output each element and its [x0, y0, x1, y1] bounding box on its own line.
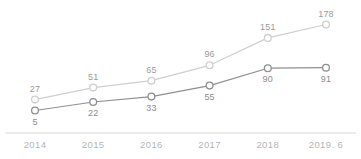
lower-series-markers — [32, 64, 330, 114]
data-point-marker[interactable] — [206, 82, 213, 89]
data-point-marker[interactable] — [323, 64, 330, 71]
x-tick-label: 2019. 6 — [309, 139, 344, 150]
chart-plot-area — [0, 0, 361, 159]
upper-series-line — [35, 25, 326, 100]
data-point-marker[interactable] — [264, 65, 271, 72]
data-point-marker[interactable] — [148, 77, 155, 84]
x-tick-label: 2018 — [256, 139, 279, 150]
data-point-value-label: 178 — [318, 9, 334, 19]
data-point-value-label: 91 — [321, 74, 331, 84]
data-point-marker[interactable] — [32, 96, 39, 103]
data-point-value-label: 55 — [204, 92, 214, 102]
data-point-value-label: 151 — [260, 22, 276, 32]
data-point-marker[interactable] — [206, 62, 213, 69]
x-tick-label: 2017 — [198, 139, 221, 150]
data-point-value-label: 96 — [204, 49, 214, 59]
data-point-value-label: 5 — [32, 117, 37, 127]
lower-series-line — [35, 68, 326, 111]
x-tick-label: 2015 — [82, 139, 105, 150]
data-point-marker[interactable] — [90, 99, 97, 106]
data-point-value-label: 65 — [146, 65, 156, 75]
x-tick-label: 2014 — [24, 139, 47, 150]
data-point-marker[interactable] — [264, 35, 271, 42]
data-point-value-label: 90 — [263, 74, 273, 84]
data-point-value-label: 27 — [30, 84, 40, 94]
data-point-value-label: 51 — [88, 72, 98, 82]
data-point-marker[interactable] — [90, 84, 97, 91]
data-point-value-label: 33 — [146, 103, 156, 113]
x-tick-label: 2016 — [140, 139, 163, 150]
data-point-marker[interactable] — [32, 107, 39, 114]
data-point-marker[interactable] — [148, 93, 155, 100]
data-point-value-label: 22 — [88, 108, 98, 118]
line-chart: 201420152016201720182019. 6 275165961511… — [0, 0, 361, 159]
data-point-marker[interactable] — [323, 21, 330, 28]
